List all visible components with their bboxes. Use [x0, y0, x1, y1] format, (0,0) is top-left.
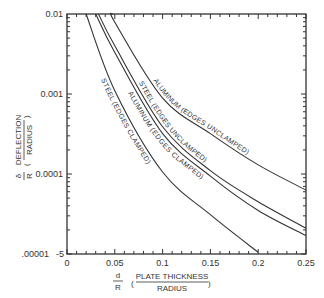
- x-tick-label: 0.25: [297, 258, 315, 268]
- svg-text:(: (: [22, 163, 31, 166]
- x-axis-text-den: RADIUS: [157, 284, 187, 293]
- y-axis-label: δR(DEFLECTIONRADIUS): [14, 114, 34, 180]
- x-axis-symbol-num: d: [116, 271, 120, 280]
- x-tick-label: 0.2: [252, 258, 265, 268]
- plot-axes: 00.050.10.150.20.250.010.0010.0001.00001…: [21, 9, 314, 268]
- chart: 00.050.10.150.20.250.010.0010.0001.00001…: [0, 0, 324, 298]
- x-tick-label: 0.05: [106, 258, 124, 268]
- y-tick-label: 0.001: [40, 89, 63, 99]
- x-tick-label: 0.1: [156, 258, 169, 268]
- plot-frame: [67, 14, 306, 254]
- svg-text:RADIUS: RADIUS: [25, 125, 34, 155]
- x-tick-label: 0.15: [202, 258, 220, 268]
- svg-text:DEFLECTION: DEFLECTION: [14, 114, 23, 165]
- curve-aluminum-edges-unclamped: [111, 13, 306, 190]
- x-axis-text-num: PLATE THICKNESS: [136, 272, 209, 281]
- y-tick-extra: -5: [56, 249, 64, 259]
- x-axis-paren: (: [131, 279, 134, 288]
- x-tick-label: 0: [64, 258, 69, 268]
- curves: ALUMINUM (EDGES UNCLAMPED)STEEL (EDGES U…: [86, 13, 306, 252]
- svg-text:δ: δ: [14, 173, 23, 178]
- svg-text:R: R: [25, 173, 34, 179]
- y-tick-label: 0.01: [45, 9, 63, 19]
- y-tick-label: .00001: [21, 249, 49, 259]
- x-axis-symbol-den: R: [115, 283, 121, 292]
- y-tick-label: 0.0001: [35, 169, 63, 179]
- svg-text:): ): [22, 115, 31, 118]
- x-axis-paren: ): [208, 279, 211, 288]
